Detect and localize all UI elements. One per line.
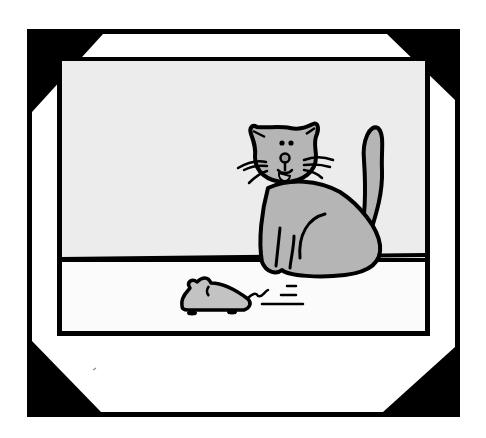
- cat-nose: [281, 154, 290, 163]
- mouse-wheel-back: [227, 310, 237, 315]
- mouse-wheel-front: [187, 311, 197, 316]
- cat-eye-right: [288, 140, 293, 145]
- illustration: [0, 0, 486, 438]
- cat-eye-left: [279, 140, 284, 145]
